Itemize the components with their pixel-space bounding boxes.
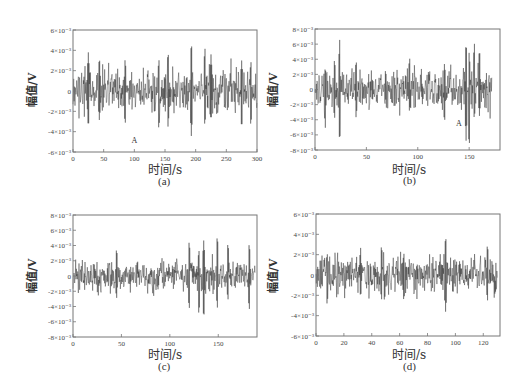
plot-d-canvas: -6×10⁻³-4×10⁻³-2×10⁻³02×10⁻³4×10⁻³6×10⁻³… bbox=[0, 0, 528, 388]
y-axis-label: 幅值/V bbox=[264, 259, 280, 294]
x-tick-label: 120 bbox=[478, 339, 489, 347]
y-tick-label: 6×10⁻³ bbox=[293, 211, 314, 219]
y-tick-label: 0 bbox=[311, 272, 315, 280]
y-tick-label: 2×10⁻³ bbox=[293, 251, 314, 259]
y-tick-label: 4×10⁻³ bbox=[293, 231, 314, 239]
x-tick-label: 100 bbox=[450, 339, 461, 347]
subplot-caption: (d) bbox=[403, 360, 416, 372]
signal-line bbox=[316, 239, 497, 312]
y-tick-label: -2×10⁻³ bbox=[291, 292, 314, 300]
x-tick-label: 20 bbox=[340, 339, 348, 347]
subplot-d: -6×10⁻³-4×10⁻³-2×10⁻³02×10⁻³4×10⁻³6×10⁻³… bbox=[0, 0, 528, 388]
x-tick-label: 40 bbox=[368, 339, 376, 347]
x-tick-label: 0 bbox=[314, 339, 318, 347]
y-tick-label: -6×10⁻³ bbox=[291, 333, 314, 341]
y-tick-label: -4×10⁻³ bbox=[291, 312, 314, 320]
